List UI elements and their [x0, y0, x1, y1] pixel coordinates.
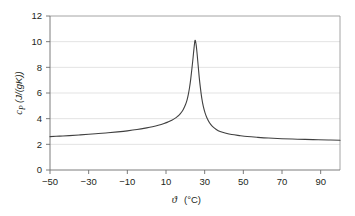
x-tick-label-70: 70	[277, 176, 288, 187]
heat-capacity-line-chart: −50−30−101030507090 024681012 ϑ (°C) cP …	[0, 0, 355, 216]
y-tick-label-0: 0	[37, 164, 42, 175]
x-tick-label-10: 10	[161, 176, 172, 187]
x-tick-label-30: 30	[199, 176, 210, 187]
x-tick-label--50: −50	[42, 176, 58, 187]
y-axis-title-unit: (J/(gK))	[13, 71, 24, 105]
chart-figure: −50−30−101030507090 024681012 ϑ (°C) cP …	[0, 0, 355, 216]
x-tick-label--30: −30	[81, 176, 97, 187]
y-tick-label-12: 12	[31, 10, 42, 21]
x-tick-label-50: 50	[238, 176, 249, 187]
y-tick-label-8: 8	[37, 62, 42, 73]
x-tick-label-90: 90	[315, 176, 326, 187]
y-tick-label-4: 4	[37, 113, 42, 124]
y-tick-label-10: 10	[31, 36, 42, 47]
y-tick-label-2: 2	[37, 139, 42, 150]
x-axis-title-symbol: ϑ	[172, 194, 178, 205]
x-axis-title-unit: (°C)	[184, 194, 201, 205]
x-tick-label--10: −10	[119, 176, 135, 187]
y-tick-label-6: 6	[37, 87, 42, 98]
x-axis-title: ϑ (°C)	[172, 194, 201, 205]
